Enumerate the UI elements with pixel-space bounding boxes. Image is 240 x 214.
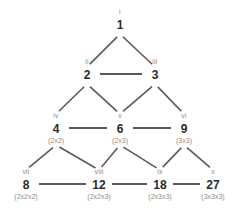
node-1: i1 (114, 8, 127, 32)
node-18: ix18(2x3x3) (148, 168, 171, 200)
edge-2-6 (90, 87, 117, 112)
node-value: 3 (152, 69, 159, 82)
node-factorization: (3x3) (176, 137, 192, 144)
node-value: 4 (53, 123, 60, 136)
edge-4-12 (59, 147, 95, 168)
node-value-halo: 18 (150, 179, 169, 192)
node-value-halo: 12 (89, 179, 108, 192)
node-factorization: (2x3) (112, 137, 128, 144)
node-roman-label: x (201, 168, 224, 175)
node-27: x27(3x3x3) (201, 168, 224, 200)
edge-1-2 (90, 37, 117, 64)
node-factorization: (2x2) (48, 137, 64, 144)
node-roman-label: iii (149, 58, 162, 65)
node-factorization: (2x2x3) (87, 193, 110, 200)
node-roman-label: vi (176, 112, 192, 119)
node-value: 18 (153, 179, 166, 192)
node-value-halo: 2 (81, 69, 94, 82)
node-value: 9 (181, 123, 188, 136)
node-value-halo: 8 (20, 179, 33, 192)
node-roman-label: iv (48, 112, 64, 119)
node-2: ii2 (81, 58, 94, 82)
node-value-halo: 27 (203, 179, 222, 192)
node-roman-label: viii (87, 168, 110, 175)
node-factorization: (2x3x3) (148, 193, 171, 200)
node-value: 2 (84, 69, 91, 82)
number-lattice-diagram: i1ii2iii3iv4(2x2)v6(2x3)vi9(3x3)vii8(2x2… (0, 0, 240, 214)
node-value-halo: 4 (50, 123, 63, 136)
edge-2-4 (59, 87, 84, 111)
node-value: 27 (206, 179, 219, 192)
edge-9-18 (163, 148, 181, 167)
node-3: iii3 (149, 58, 162, 82)
edge-3-9 (158, 87, 181, 111)
edge-9-27 (187, 148, 210, 168)
node-value: 6 (117, 123, 124, 136)
node-8: vii8(2x2x2) (14, 168, 37, 200)
node-roman-label: v (112, 112, 128, 119)
node-roman-label: i (114, 8, 127, 15)
node-value: 1 (117, 19, 124, 32)
edge-6-18 (123, 147, 156, 168)
node-12: viii12(2x2x3) (87, 168, 110, 200)
node-6: v6(2x3) (112, 112, 128, 144)
node-4: iv4(2x2) (48, 112, 64, 144)
edge-6-12 (102, 148, 118, 167)
node-value-halo: 6 (114, 123, 127, 136)
node-factorization: (3x3x3) (201, 193, 224, 200)
node-value-halo: 3 (149, 69, 162, 82)
node-value-halo: 9 (178, 123, 191, 136)
node-9: vi9(3x3) (176, 112, 192, 144)
node-value-halo: 1 (114, 19, 127, 32)
node-value: 12 (92, 179, 105, 192)
node-roman-label: vii (14, 168, 37, 175)
edge-4-8 (29, 148, 53, 168)
node-factorization: (2x2x2) (14, 193, 37, 200)
edge-3-6 (123, 87, 152, 112)
node-roman-label: ii (81, 58, 94, 65)
node-roman-label: ix (148, 168, 171, 175)
node-value: 8 (23, 179, 30, 192)
